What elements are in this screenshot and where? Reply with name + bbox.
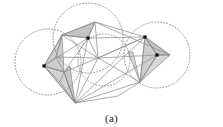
dotted-circles-layer bbox=[15, 3, 190, 95]
figure-caption: (a) bbox=[0, 113, 223, 124]
graph-edge bbox=[98, 37, 145, 58]
graph-edge bbox=[75, 37, 145, 103]
figure-container: (a) bbox=[0, 0, 223, 127]
vertex-marker-v-apex bbox=[143, 35, 146, 38]
graph-edge bbox=[44, 38, 88, 66]
graph-edge bbox=[75, 82, 140, 103]
vertex-marker-v-top bbox=[86, 36, 89, 39]
circle-inner bbox=[78, 34, 130, 86]
vertex-marker-v-right bbox=[155, 53, 158, 56]
graph-edge bbox=[118, 82, 140, 96]
graph-edge bbox=[95, 22, 170, 55]
shaded-faces-layer bbox=[44, 22, 170, 103]
vertex-marker-v-left bbox=[42, 64, 45, 67]
geometry-diagram bbox=[0, 0, 223, 127]
